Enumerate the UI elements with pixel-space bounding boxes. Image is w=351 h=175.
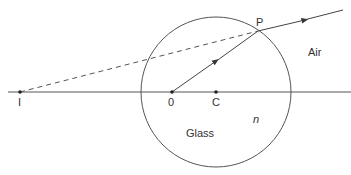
virtual-ray-dashed — [20, 31, 258, 92]
label-air: Air — [308, 46, 322, 58]
refraction-diagram: I 0 C P Air Glass n — [0, 0, 351, 175]
label-point-i: I — [18, 96, 21, 108]
point-i-dot — [18, 90, 22, 94]
label-point-p: P — [256, 16, 263, 28]
refracted-ray-first-half — [258, 20, 305, 31]
refracted-ray-second-half — [304, 10, 343, 20]
internal-ray-first-half — [172, 61, 216, 92]
internal-ray-second-half — [215, 31, 258, 62]
point-o-dot — [170, 90, 174, 94]
label-point-o: 0 — [168, 96, 174, 108]
label-glass: Glass — [186, 127, 215, 139]
label-refractive-index: n — [253, 113, 259, 125]
label-point-c: C — [212, 96, 220, 108]
point-c-dot — [214, 90, 218, 94]
